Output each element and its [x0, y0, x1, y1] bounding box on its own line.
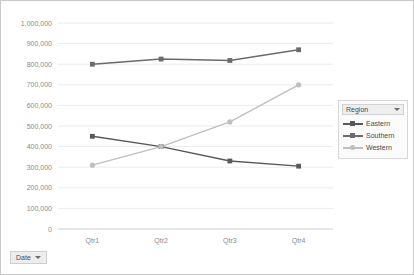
data-point-marker [90, 163, 95, 168]
y-axis-tick-label: 400,000 [27, 143, 52, 150]
legend-item-label: Western [366, 143, 392, 153]
series-line-western [92, 85, 298, 165]
legend-item-southern[interactable]: Southern [339, 130, 407, 142]
series-markers [90, 47, 301, 168]
chevron-down-icon[interactable] [394, 108, 400, 111]
legend-key-swatch [343, 143, 363, 153]
data-point-marker [227, 119, 232, 124]
gridlines [58, 23, 333, 229]
legend-key-swatch [343, 131, 363, 141]
legend-title: Region [346, 105, 368, 114]
y-axis-tick-label: 200,000 [27, 184, 52, 191]
legend-item-eastern[interactable]: Eastern [339, 118, 407, 130]
legend-item-label: Southern [366, 131, 394, 141]
chevron-down-icon[interactable] [35, 256, 41, 259]
data-point-marker [159, 144, 164, 149]
y-axis-tick-label: 800,000 [27, 61, 52, 68]
series-line-eastern [92, 136, 298, 166]
data-point-marker [159, 57, 164, 62]
chart-window: 1,000,000900,000800,000700,000600,000500… [0, 0, 414, 275]
y-axis-tick-label: 700,000 [27, 81, 52, 88]
y-axis-tick-label: 300,000 [27, 164, 52, 171]
y-axis-tick-label: 100,000 [27, 205, 52, 212]
x-axis-tick-label: Qtr4 [292, 237, 306, 245]
series-lines [92, 50, 298, 166]
legend-item-label: Eastern [366, 119, 390, 129]
legend-panel[interactable]: Region EasternSouthernWestern [338, 100, 408, 159]
data-point-marker [296, 47, 301, 52]
legend-item-western[interactable]: Western [339, 142, 407, 154]
y-axis-tick-label: 900,000 [27, 40, 52, 47]
y-axis-tick-label: 1,000,000 [21, 20, 52, 27]
x-axis-tick-label: Qtr2 [154, 237, 168, 245]
x-axis-tick-label: Qtr3 [223, 237, 237, 245]
series-line-southern [92, 50, 298, 64]
data-point-marker [227, 159, 232, 164]
y-axis-tick-label: 500,000 [27, 123, 52, 130]
x-axis-tick-labels: Qtr1Qtr2Qtr3Qtr4 [86, 237, 306, 245]
y-axis-tick-label: 0 [48, 226, 52, 233]
y-axis-tick-labels: 1,000,000900,000800,000700,000600,000500… [21, 20, 52, 233]
y-axis-tick-label: 600,000 [27, 102, 52, 109]
data-point-marker [90, 62, 95, 67]
date-filter-label: Date [16, 253, 31, 262]
data-point-marker [90, 134, 95, 139]
data-point-marker [296, 82, 301, 87]
legend-field-button[interactable]: Region [342, 104, 404, 115]
x-axis-tick-label: Qtr1 [86, 237, 100, 245]
legend-items: EasternSouthernWestern [339, 118, 407, 154]
legend-key-swatch [343, 119, 363, 129]
date-filter-button[interactable]: Date [10, 251, 47, 264]
data-point-marker [227, 58, 232, 63]
data-point-marker [296, 164, 301, 169]
